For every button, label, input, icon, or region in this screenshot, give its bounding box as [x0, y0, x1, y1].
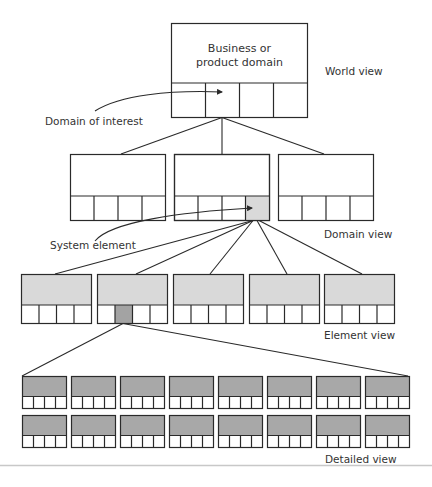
element-box-3 [174, 275, 244, 324]
domain-of-interest-label: Domain of interest [45, 115, 143, 127]
element-box-4 [250, 275, 320, 324]
domain-view-label: Domain view [324, 228, 393, 240]
element-box-5 [325, 275, 395, 324]
world-box-title-line2: product domain [196, 56, 283, 69]
detail-box-r2-c1 [23, 416, 67, 448]
detail-box-r2-c6 [268, 416, 312, 448]
detail-box-r1-c8 [366, 377, 410, 409]
system-element-label: System element [50, 239, 136, 251]
detail-box-r2-c2 [72, 416, 116, 448]
domain-box-1 [71, 155, 166, 221]
detail-box-r1-c5 [219, 377, 263, 409]
detail-box-r2-c3 [121, 416, 165, 448]
world-view-label: World view [325, 65, 383, 77]
highlighted-cell [115, 305, 133, 324]
element-box-2 [98, 275, 168, 324]
detail-box-r2-c4 [170, 416, 214, 448]
detail-box-r1-c6 [268, 377, 312, 409]
detail-box-r2-c8 [366, 416, 410, 448]
world-to-domain-connectors [121, 118, 324, 155]
detail-box-r1-c7 [317, 377, 361, 409]
detail-grid [23, 377, 410, 448]
detail-box-r1-c4 [170, 377, 214, 409]
detailed-view-label: Detailed view [325, 453, 397, 465]
detail-box-r1-c3 [121, 377, 165, 409]
world-view-box: Business or product domain [172, 24, 308, 118]
world-box-title-line1: Business or [208, 42, 272, 55]
element-view-label: Element view [324, 329, 395, 341]
element-box-1 [22, 275, 92, 324]
domain-box-2 [175, 155, 270, 221]
element-row [22, 275, 395, 324]
detail-box-r1-c1 [23, 377, 67, 409]
detail-box-r2-c7 [317, 416, 361, 448]
hierarchy-diagram: Business or product domain World view Do… [0, 0, 432, 487]
domain-box-3 [279, 155, 374, 221]
detail-box-r1-c2 [72, 377, 116, 409]
detail-box-r2-c5 [219, 416, 263, 448]
